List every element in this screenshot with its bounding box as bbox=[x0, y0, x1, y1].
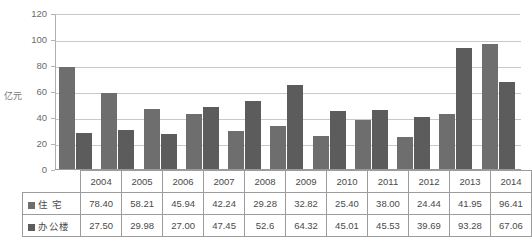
table-cell: 27.50 bbox=[81, 215, 122, 237]
bar-office-2014 bbox=[499, 82, 515, 169]
table-cell: 45.94 bbox=[163, 193, 204, 215]
bar-office-2007 bbox=[203, 107, 219, 169]
y-axis-tick-label: 120 bbox=[14, 9, 47, 19]
bar-group bbox=[393, 14, 435, 169]
bar-office-2010 bbox=[330, 111, 346, 170]
bar-residential-2014 bbox=[482, 44, 498, 169]
table-cell: 29.28 bbox=[245, 193, 286, 215]
table-cell: 32.82 bbox=[286, 193, 327, 215]
table-cell: 96.41 bbox=[490, 193, 531, 215]
table-header-row: 2004200520062007200820092010201120122013… bbox=[23, 171, 532, 193]
plot-region: 亿元 020406080100120 bbox=[0, 0, 532, 172]
bar-office-2011 bbox=[372, 110, 388, 169]
table-year-header: 2008 bbox=[245, 171, 286, 193]
table-cell: 27.00 bbox=[163, 215, 204, 237]
table-year-header: 2012 bbox=[408, 171, 449, 193]
legend-swatch-icon bbox=[28, 224, 35, 231]
bar-group bbox=[266, 14, 308, 169]
bar-group bbox=[55, 14, 97, 169]
bar-office-2004 bbox=[76, 133, 92, 169]
table-cell: 64.32 bbox=[286, 215, 327, 237]
bar-residential-2012 bbox=[397, 137, 413, 169]
table-corner-cell bbox=[23, 171, 81, 193]
bar-residential-2013 bbox=[439, 114, 455, 169]
bar-group bbox=[435, 14, 477, 169]
table-cell: 38.00 bbox=[368, 193, 409, 215]
table-cell: 45.01 bbox=[327, 215, 368, 237]
table-year-header: 2009 bbox=[286, 171, 327, 193]
table-cell: 47.45 bbox=[204, 215, 245, 237]
bar-residential-2005 bbox=[101, 93, 117, 169]
y-axis-tick-label: 20 bbox=[14, 139, 47, 149]
bar-residential-2004 bbox=[59, 67, 75, 169]
table-year-header: 2005 bbox=[122, 171, 163, 193]
bar-group bbox=[182, 14, 224, 169]
table-cell: 52.6 bbox=[245, 215, 286, 237]
bar-office-2013 bbox=[456, 48, 472, 169]
table-year-header: 2014 bbox=[490, 171, 531, 193]
bar-residential-2006 bbox=[144, 109, 160, 169]
bar-residential-2009 bbox=[270, 126, 286, 169]
bar-office-2009 bbox=[287, 85, 303, 169]
y-axis-tick-label: 100 bbox=[14, 35, 47, 45]
table-cell: 42.24 bbox=[204, 193, 245, 215]
table-year-header: 2004 bbox=[81, 171, 122, 193]
table-row: 办公楼27.5029.9827.0047.4552.664.3245.0145.… bbox=[23, 215, 532, 237]
table-cell: 93.28 bbox=[449, 215, 490, 237]
table-cell: 25.40 bbox=[327, 193, 368, 215]
table-cell: 24.44 bbox=[408, 193, 449, 215]
y-axis-tick-label: 40 bbox=[14, 113, 47, 123]
legend-label: 办公楼 bbox=[38, 221, 70, 232]
table-cell: 45.53 bbox=[368, 215, 409, 237]
y-axis-tick-label: 80 bbox=[14, 61, 47, 71]
bar-group bbox=[351, 14, 393, 169]
data-table: 2004200520062007200820092010201120122013… bbox=[22, 170, 532, 237]
table-year-header: 2011 bbox=[368, 171, 409, 193]
bar-residential-2007 bbox=[186, 114, 202, 169]
bar-residential-2008 bbox=[228, 131, 244, 169]
table-cell: 58.21 bbox=[122, 193, 163, 215]
bar-office-2005 bbox=[118, 130, 134, 169]
table-cell: 78.40 bbox=[81, 193, 122, 215]
legend-swatch-icon bbox=[28, 202, 35, 209]
table-cell: 29.98 bbox=[122, 215, 163, 237]
legend-entry-residential: 住 宅 bbox=[23, 193, 81, 215]
table-cell: 67.06 bbox=[490, 215, 531, 237]
table-year-header: 2006 bbox=[163, 171, 204, 193]
table-year-header: 2007 bbox=[204, 171, 245, 193]
bar-group bbox=[97, 14, 139, 169]
bar-office-2006 bbox=[161, 134, 177, 169]
table-year-header: 2010 bbox=[327, 171, 368, 193]
legend-entry-office: 办公楼 bbox=[23, 215, 81, 237]
table-row: 住 宅78.4058.2145.9442.2429.2832.8225.4038… bbox=[23, 193, 532, 215]
bar-group bbox=[140, 14, 182, 169]
chart-container: 亿元 020406080100120 200420052006200720082… bbox=[0, 0, 532, 237]
bar-group bbox=[478, 14, 520, 169]
bar-group bbox=[309, 14, 351, 169]
bar-residential-2010 bbox=[313, 136, 329, 169]
table-cell: 41.95 bbox=[449, 193, 490, 215]
table-body: 住 宅78.4058.2145.9442.2429.2832.8225.4038… bbox=[23, 193, 532, 237]
bar-office-2012 bbox=[414, 117, 430, 169]
bar-residential-2011 bbox=[355, 120, 371, 169]
bar-group bbox=[224, 14, 266, 169]
y-axis-tick-label: 60 bbox=[14, 87, 47, 97]
bar-office-2008 bbox=[245, 101, 261, 169]
legend-label: 住 宅 bbox=[38, 199, 62, 210]
table-cell: 39.69 bbox=[408, 215, 449, 237]
table-year-header: 2013 bbox=[449, 171, 490, 193]
